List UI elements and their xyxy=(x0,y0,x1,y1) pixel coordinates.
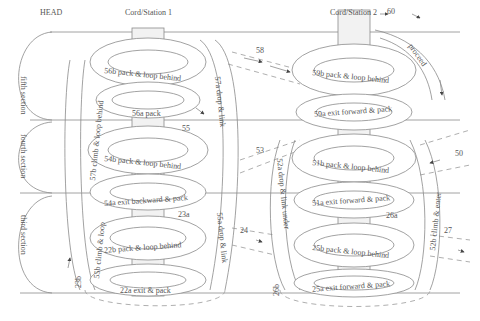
head-label: HEAD xyxy=(40,8,62,17)
connector-53: 53 xyxy=(256,146,264,155)
connector-24: 24 xyxy=(240,226,248,235)
loop-56a: 56a pack xyxy=(132,109,161,118)
marker-60: 60 xyxy=(387,7,395,16)
section-fourth: fourth section xyxy=(19,134,28,178)
marker-26a: 26a xyxy=(386,211,398,220)
connector-50: 50 xyxy=(455,149,463,158)
vertical-23b: 23b xyxy=(74,276,83,288)
station1-label: Cord/Station 1 xyxy=(125,8,172,17)
marker-55: 55 xyxy=(182,124,190,133)
section-fifth: fifth section xyxy=(19,76,28,114)
section-third: third section xyxy=(19,215,28,255)
station2-label: Cord/Station 2 xyxy=(330,8,377,17)
connector-58: 58 xyxy=(256,46,264,55)
vertical-26b: 26b xyxy=(272,284,281,296)
loop-22a: 22a exit & pack xyxy=(120,286,171,295)
marker-23a: 23a xyxy=(178,210,190,219)
connector-27: 27 xyxy=(444,226,452,235)
